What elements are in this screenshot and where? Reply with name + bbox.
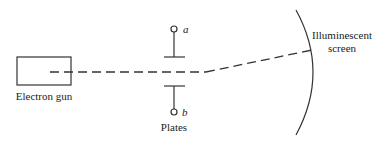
illuminescent-screen bbox=[296, 10, 313, 135]
terminal-a-icon bbox=[171, 26, 177, 32]
electron-gun-box bbox=[17, 57, 71, 85]
electron-gun-label: Electron gun bbox=[16, 90, 73, 102]
terminal-b-label: b bbox=[182, 106, 188, 118]
screen-label-line2: screen bbox=[328, 42, 357, 54]
plates-label: Plates bbox=[161, 121, 187, 133]
crt-diagram: Electron gun a b Plates Illuminescent sc… bbox=[0, 0, 387, 145]
screen-label-line1: Illuminescent bbox=[312, 29, 372, 41]
terminal-b-icon bbox=[171, 109, 177, 115]
electron-beam-deflected bbox=[206, 50, 312, 72]
plate-top bbox=[164, 26, 185, 57]
terminal-a-label: a bbox=[183, 23, 189, 35]
